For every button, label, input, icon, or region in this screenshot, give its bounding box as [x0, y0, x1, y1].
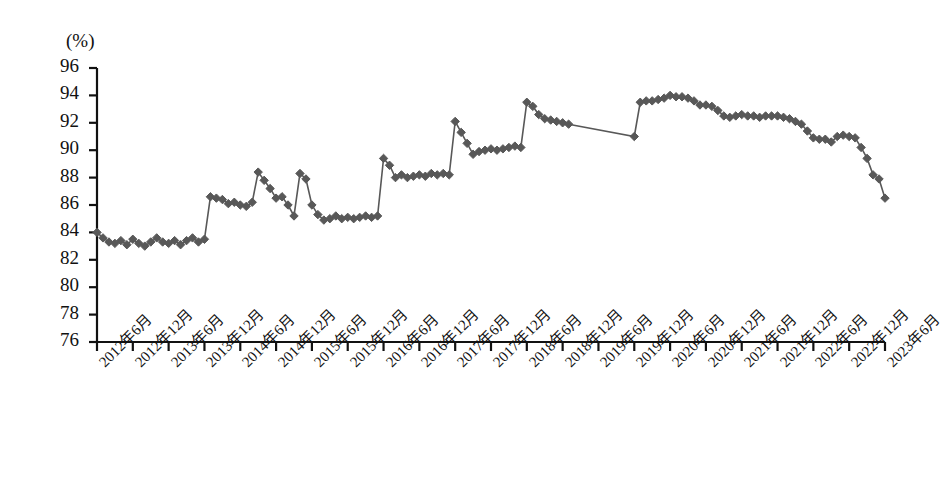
data-point-markers [93, 91, 889, 250]
